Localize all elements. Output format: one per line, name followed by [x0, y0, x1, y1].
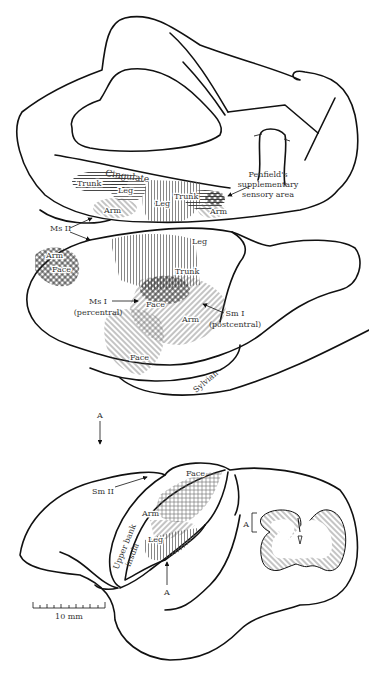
label-ms2: Ms II	[50, 224, 71, 233]
lateral-view-panel: Arm Face Leg Trunk Face Arm Face Ms I (p…	[27, 228, 369, 395]
label-scale: 10 mm	[55, 612, 83, 621]
label-sm2: Sm II	[92, 487, 114, 496]
section-bracket	[252, 513, 257, 532]
sm2-arrow	[115, 477, 147, 487]
label-ms1-sub: (percentral)	[74, 308, 123, 317]
label-arm-right: Arm	[209, 207, 228, 216]
label-arm-sm2: Arm	[141, 509, 160, 518]
label-sylvian: Sylvian	[192, 369, 220, 395]
leg-area-sm2	[144, 528, 198, 560]
label-arrow-a-bottom: A	[163, 588, 170, 597]
label-face-ms2: Face	[52, 265, 71, 274]
label-leg-left: Leg	[118, 186, 133, 195]
medial-view-panel: Cingulate Trunk Leg Arm Leg Trunk Arm Pe…	[17, 17, 358, 240]
label-trunk-lateral: Trunk	[175, 267, 199, 276]
label-sm1: Sm I	[226, 309, 245, 318]
label-penfield-1: Penfield's	[249, 170, 288, 179]
label-leg-center: Leg	[155, 199, 170, 208]
label-ms1: Ms I	[89, 297, 107, 306]
label-trunk-right: Trunk	[174, 192, 198, 201]
somatotopic-diagram: Cingulate Trunk Leg Arm Leg Trunk Arm Pe…	[0, 0, 369, 676]
label-section-a: A	[242, 520, 249, 529]
spinal-cord-section: A	[242, 510, 346, 571]
ms2-arrow-down	[70, 232, 90, 240]
label-leg-sm2: Leg	[148, 535, 163, 544]
face-area-sm2	[155, 472, 222, 522]
corpus-callosum	[71, 69, 221, 151]
label-face-sm2: Face	[186, 469, 205, 478]
label-arm-left: Arm	[103, 206, 122, 215]
label-leg-lateral: Leg	[192, 237, 207, 246]
label-sm1-sub: (postcentral)	[209, 320, 261, 329]
label-face-lower: Face	[130, 353, 149, 362]
label-arm-lateral: Arm	[181, 315, 200, 324]
label-penfield-3: sensory area	[242, 190, 294, 199]
label-face-upper: Face	[146, 300, 165, 309]
insula-view-panel: A Sm II Face Arm Leg Upper bank insula A…	[20, 411, 357, 660]
label-arrow-a-top: A	[96, 411, 103, 420]
label-arm-ms2: Arm	[45, 251, 64, 260]
scale-bar: 10 mm	[33, 602, 105, 621]
label-trunk-left: Trunk	[77, 179, 101, 188]
